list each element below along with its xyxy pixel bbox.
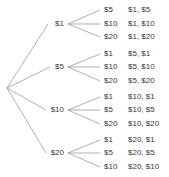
- level1-node-3: $20: [51, 149, 64, 157]
- outcome-pair-2: $1, $20: [128, 33, 155, 41]
- level2-node-7: $5: [104, 106, 113, 114]
- outcome-pair-4: $5, $10: [128, 63, 155, 71]
- level2-node-8: $20: [104, 120, 117, 128]
- outcome-pair-5: $5, $20: [128, 77, 155, 85]
- level2-node-3: $1: [104, 50, 113, 58]
- level2-node-9: $1: [104, 136, 113, 144]
- level2-node-1: $10: [104, 20, 117, 28]
- outcome-pair-6: $10, $1: [128, 93, 155, 101]
- level2-node-10: $5: [104, 149, 113, 157]
- level1-node-1: $5: [55, 63, 64, 71]
- level2-node-5: $20: [104, 77, 117, 85]
- tree-branch-stage2-6: [68, 97, 100, 110]
- level2-node-4: $10: [104, 63, 117, 71]
- outcome-pair-1: $1, $10: [128, 20, 155, 28]
- tree-branch-stage2-5: [68, 67, 100, 81]
- outcome-pair-0: $1, $5: [128, 6, 150, 14]
- tree-branch-stage2-9: [68, 140, 100, 153]
- outcome-pair-7: $10, $5: [128, 106, 155, 114]
- outcome-pair-11: $20, $10: [128, 163, 159, 171]
- level2-node-2: $20: [104, 33, 117, 41]
- tree-branch-stage2-2: [68, 24, 100, 37]
- probability-tree-diagram: $1$5$10$20 $5$10$20$1$10$20$1$5$20$1$5$1…: [0, 0, 169, 177]
- tree-branch-stage2-8: [68, 110, 100, 124]
- level2-node-0: $5: [104, 6, 113, 14]
- outcome-pair-10: $20, $5: [128, 149, 155, 157]
- tree-branch-stage1-0: [7, 24, 48, 88]
- level2-node-11: $10: [104, 163, 117, 171]
- tree-branch-stage1-2: [7, 88, 46, 110]
- stage1-edge-group: [7, 24, 50, 153]
- level1-node-0: $1: [55, 20, 64, 28]
- tree-branch-stage1-3: [7, 88, 46, 153]
- tree-branch-stage2-0: [68, 10, 100, 24]
- level2-node-6: $1: [104, 93, 113, 101]
- tree-branch-stage2-3: [68, 54, 100, 67]
- outcome-pair-9: $20, $1: [128, 136, 155, 144]
- outcome-pair-3: $5, $1: [128, 50, 150, 58]
- tree-branch-stage2-11: [68, 153, 100, 167]
- outcome-pair-8: $10, $20: [128, 120, 159, 128]
- stage2-edge-group: [68, 10, 100, 167]
- level1-node-2: $10: [51, 106, 64, 114]
